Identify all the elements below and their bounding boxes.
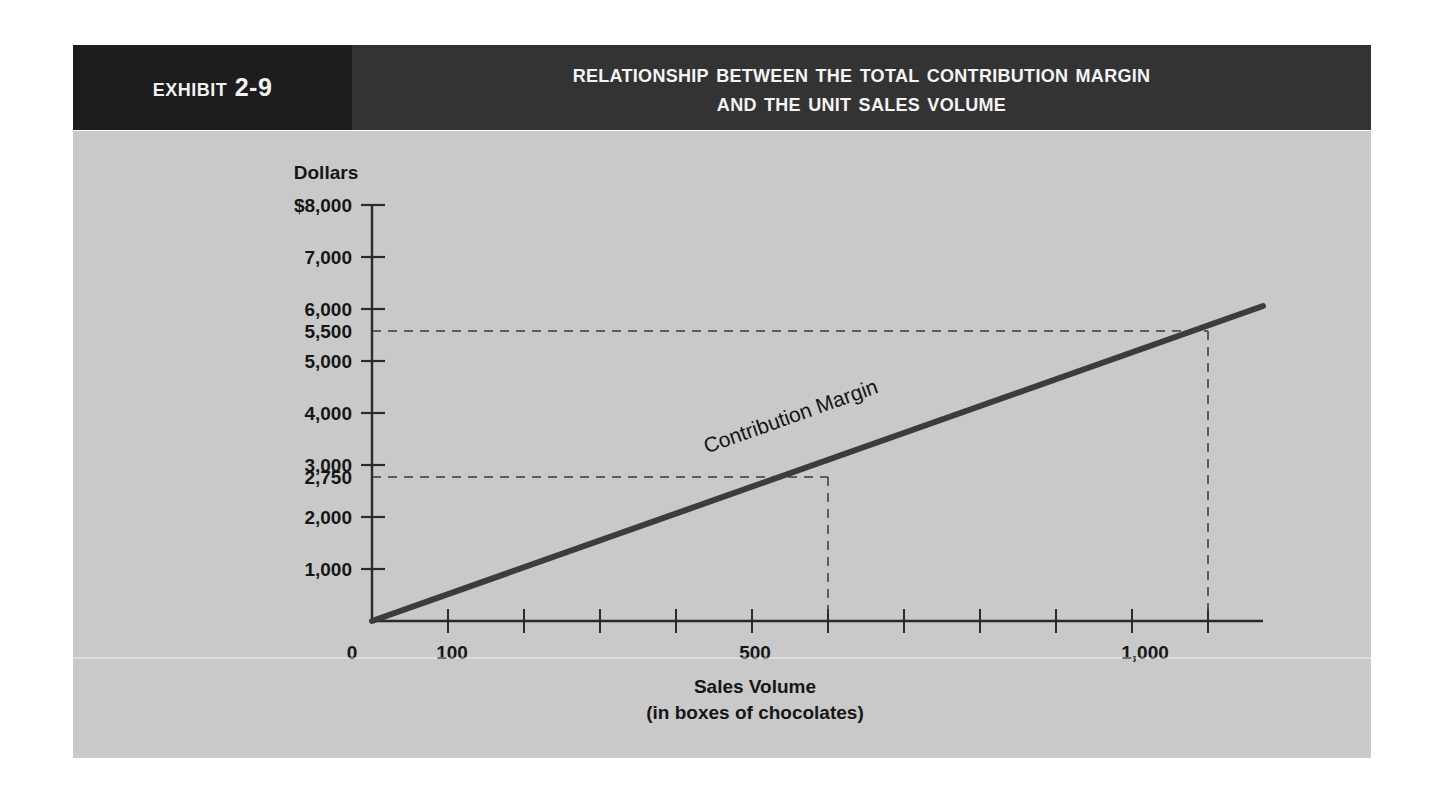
x-tick-label-0: 0 bbox=[347, 642, 358, 663]
x-axis-subtitle: (in boxes of chocolates) bbox=[646, 702, 863, 723]
y-tick-label-4000: 4,000 bbox=[304, 403, 352, 424]
contribution-margin-chart: Contribution Margin Dollars $8,000 7,000… bbox=[73, 131, 1371, 758]
x-tick-label-500: 500 bbox=[739, 642, 771, 663]
exhibit-title-line-2: and the Unit Sales Volume bbox=[573, 88, 1151, 117]
series-annotation-contribution-margin: Contribution Margin bbox=[700, 375, 880, 458]
y-reference-label-2750: 2,750 bbox=[304, 467, 352, 488]
exhibit-number-label: Exhibit 2-9 bbox=[153, 73, 273, 102]
exhibit-number-block: Exhibit 2-9 bbox=[73, 45, 352, 130]
x-tick-label-1000: 1,000 bbox=[1121, 642, 1169, 663]
y-tick-label-6000: 6,000 bbox=[304, 299, 352, 320]
y-reference-label-5500: 5,500 bbox=[304, 321, 352, 342]
exhibit-figure: Exhibit 2-9 Relationship between the Tot… bbox=[0, 0, 1441, 798]
y-tick-label-7000: 7,000 bbox=[304, 247, 352, 268]
x-tick-label-100: 100 bbox=[436, 642, 468, 663]
y-axis-title: Dollars bbox=[294, 162, 358, 183]
exhibit-title-block: Relationship between the Total Contribut… bbox=[352, 45, 1371, 130]
exhibit-header: Exhibit 2-9 Relationship between the Tot… bbox=[73, 45, 1371, 130]
y-tick-label-5000: 5,000 bbox=[304, 351, 352, 372]
exhibit-title-line-1: Relationship between the Total Contribut… bbox=[573, 59, 1151, 88]
contribution-margin-line bbox=[372, 306, 1263, 621]
x-axis-title: Sales Volume bbox=[694, 676, 816, 697]
chart-panel: Contribution Margin Dollars $8,000 7,000… bbox=[73, 131, 1371, 758]
exhibit-title: Relationship between the Total Contribut… bbox=[573, 59, 1151, 117]
y-tick-label-8000: $8,000 bbox=[294, 195, 352, 216]
y-tick-label-2000: 2,000 bbox=[304, 507, 352, 528]
y-tick-label-1000: 1,000 bbox=[304, 559, 352, 580]
